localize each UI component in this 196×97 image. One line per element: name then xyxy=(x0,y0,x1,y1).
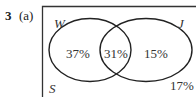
universal-set-label: S xyxy=(49,81,56,96)
region-w-only: 37% xyxy=(66,46,90,61)
region-w-and-j: 31% xyxy=(104,46,128,61)
set-w-label: W xyxy=(54,16,66,31)
region-j-only: 15% xyxy=(144,46,168,61)
venn-diagram: W J S 37% 31% 15% 17% xyxy=(0,0,196,97)
set-j-label: J xyxy=(178,16,185,31)
region-outside: 17% xyxy=(170,78,194,93)
